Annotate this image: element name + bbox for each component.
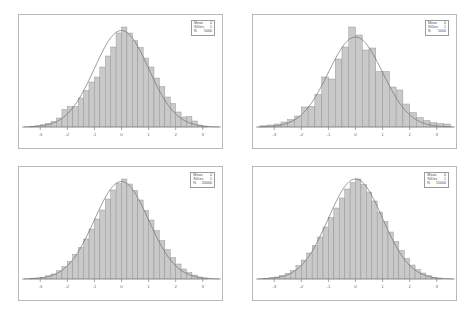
histogram-bar [350, 183, 355, 280]
histogram-bar [78, 248, 83, 280]
histogram-bar [143, 211, 148, 280]
histogram-bar [149, 67, 154, 127]
x-axis-ticks [40, 127, 203, 130]
histogram-bar [94, 219, 99, 279]
legend-row-n: N 5000 [428, 30, 446, 34]
histogram-bar [416, 118, 423, 128]
histogram-bar [132, 191, 137, 280]
histogram-bar [170, 104, 175, 128]
histogram-bar [349, 27, 356, 127]
stats-legend: Mean 0 StDev 1 N 15000 [424, 172, 449, 188]
histogram-bar [361, 185, 366, 280]
histogram-panel-top-left: -3-2-10123 Mean 0 StDev 1 N 5000 [18, 14, 223, 149]
histogram-bar [94, 77, 99, 127]
histogram-bars [261, 27, 451, 127]
histogram-bar [369, 48, 376, 127]
histogram-bar [307, 253, 312, 279]
histogram-bar [181, 117, 186, 127]
histogram-bar [362, 50, 369, 127]
legend-value-n: 5000 [438, 30, 446, 34]
histogram-bar [318, 237, 323, 279]
legend-label-n: N [427, 182, 436, 186]
histogram-bar [366, 192, 371, 279]
x-axis-ticks [40, 279, 203, 282]
histogram-bar [138, 200, 143, 279]
histogram-bar [100, 210, 105, 279]
histogram-bar [308, 107, 315, 128]
legend-row-n: N 15000 [427, 182, 446, 186]
histogram-panel-bottom-left: -3-2-10123 Mean 0 StDev 1 N 20000 [18, 166, 223, 301]
histogram-bar [410, 265, 415, 279]
histogram-bar [334, 208, 339, 279]
histogram-bar [383, 222, 388, 280]
histogram-panel-top-right: -3-2-10123 Mean 0 StDev 1 N 5000 [252, 14, 457, 149]
histogram-bar [127, 184, 132, 279]
histogram-bar [111, 190, 116, 279]
histogram-bar [111, 47, 116, 127]
histogram-bar [84, 91, 89, 128]
histogram-bar [342, 47, 349, 127]
histogram-panel-bottom-right: -3-2-10123 Mean 0 StDev 1 N 15000 [252, 166, 457, 301]
histogram-bar [122, 27, 127, 127]
histogram-bar [159, 241, 164, 280]
histogram-bar [78, 98, 83, 127]
histogram-bar [377, 212, 382, 279]
histogram-bar [84, 239, 89, 279]
histogram-bar [138, 48, 143, 128]
histogram-bar [388, 232, 393, 279]
histogram-bar [116, 33, 121, 127]
histogram-bar [356, 179, 361, 279]
legend-value-n: 15000 [436, 182, 446, 186]
histogram-bar [89, 229, 94, 279]
histogram-bar [67, 262, 72, 280]
histogram-bar [67, 107, 72, 128]
histogram-bar [149, 220, 154, 279]
histogram-bar [315, 95, 322, 128]
histogram-bar [100, 67, 105, 127]
histogram-bar [396, 90, 403, 127]
histogram-bar [127, 33, 132, 127]
histogram-bar [430, 123, 437, 128]
histogram-bar [312, 246, 317, 280]
histogram-bar [376, 72, 383, 128]
legend-label-n: N [428, 30, 437, 34]
histogram-bar [399, 251, 404, 280]
histogram-bar [410, 113, 417, 128]
legend-label-n: N [194, 30, 203, 34]
histogram-bar [132, 41, 137, 128]
histogram-bars [263, 179, 442, 279]
histogram-bar [389, 87, 396, 127]
histogram-bar [122, 179, 127, 279]
histogram-bar [328, 79, 335, 127]
legend-label-n: N [193, 182, 202, 186]
histogram-bar [345, 189, 350, 279]
histogram-bar [73, 107, 78, 128]
legend-row-n: N 20000 [193, 182, 212, 186]
histogram-bars [29, 27, 208, 127]
histogram-bar [89, 82, 94, 127]
histogram-bars [29, 179, 208, 279]
stats-legend: Mean 0 StDev 1 N 5000 [191, 20, 215, 36]
stats-legend: Mean 0 StDev 1 N 5000 [425, 20, 449, 36]
stats-legend: Mean 0 StDev 1 N 20000 [190, 172, 215, 188]
histogram-bar [165, 250, 170, 280]
x-axis-ticks [274, 127, 437, 130]
histogram-bar [335, 59, 342, 127]
histogram-bar [339, 198, 344, 279]
histogram-bar [105, 199, 110, 279]
x-axis-ticks [274, 279, 437, 282]
histogram-bar [404, 259, 409, 280]
histogram-bar [356, 35, 363, 127]
histogram-bar [143, 58, 148, 127]
histogram-bar [403, 104, 410, 127]
histogram-bar [372, 201, 377, 279]
histogram-bar [323, 227, 328, 279]
histogram-bar [116, 184, 121, 280]
figure-canvas: -3-2-10123 Mean 0 StDev 1 N 5000 -3-2-10… [0, 0, 476, 320]
histogram-bar [328, 218, 333, 280]
legend-value-n: 5000 [204, 30, 212, 34]
histogram-bar [105, 56, 110, 127]
histogram-bar [301, 107, 308, 127]
legend-value-n: 20000 [202, 182, 212, 186]
legend-row-n: N 5000 [194, 30, 212, 34]
